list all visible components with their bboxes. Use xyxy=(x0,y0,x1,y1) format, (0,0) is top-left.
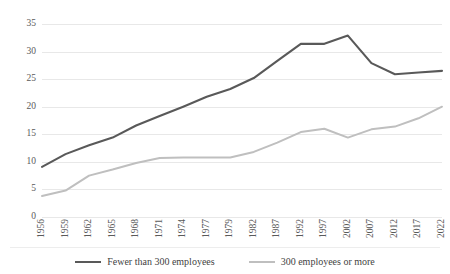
chart-legend: Fewer than 300 employees 300 employees o… xyxy=(0,252,450,272)
x-tick-label: 2002 xyxy=(343,219,353,238)
x-tick-label: 1962 xyxy=(84,219,94,238)
plot-area xyxy=(42,24,442,217)
legend-label-series-0: Fewer than 300 employees xyxy=(107,257,214,267)
x-tick-label: 1982 xyxy=(249,219,259,238)
y-tick-label: 15 xyxy=(27,130,37,140)
gridline xyxy=(42,217,442,218)
x-tick-label: 1979 xyxy=(225,219,235,238)
y-tick-label: 35 xyxy=(27,19,37,29)
y-tick-label: 30 xyxy=(27,47,37,57)
x-tick-label: 1987 xyxy=(273,219,283,238)
x-tick-label: 1992 xyxy=(296,219,306,238)
x-tick-label: 2017 xyxy=(414,219,424,238)
legend-swatch-icon-series-0 xyxy=(75,261,101,263)
x-tick-label: 1968 xyxy=(131,219,141,238)
y-tick-label: 25 xyxy=(27,74,37,84)
legend-item-series-1[interactable]: 300 employees or more xyxy=(249,257,375,267)
x-tick-label: 1965 xyxy=(108,219,118,238)
x-tick-label: 1971 xyxy=(155,219,165,238)
x-tick-label: 1997 xyxy=(320,219,330,238)
x-tick-label: 1974 xyxy=(178,219,188,238)
series-layer xyxy=(42,24,442,217)
y-tick-label: 5 xyxy=(31,185,36,195)
legend-item-series-0[interactable]: Fewer than 300 employees xyxy=(75,257,214,267)
series-line-1 xyxy=(42,107,442,196)
x-tick-label: 1956 xyxy=(37,219,47,238)
y-tick-label: 20 xyxy=(27,102,37,112)
series-line-0 xyxy=(42,36,442,167)
legend-divider xyxy=(10,247,440,248)
y-axis: 05101520253035 xyxy=(0,24,36,217)
x-tick-label: 2007 xyxy=(367,219,377,238)
y-tick-label: 10 xyxy=(27,157,37,167)
legend-label-series-1: 300 employees or more xyxy=(281,257,375,267)
x-tick-label: 1977 xyxy=(202,219,212,238)
line-chart: 05101520253035 1956195919621965196819711… xyxy=(0,0,450,274)
legend-swatch-icon-series-1 xyxy=(249,261,275,263)
x-tick-label: 2012 xyxy=(390,219,400,238)
x-tick-label: 1959 xyxy=(61,219,71,238)
x-tick-label: 2022 xyxy=(437,219,447,238)
